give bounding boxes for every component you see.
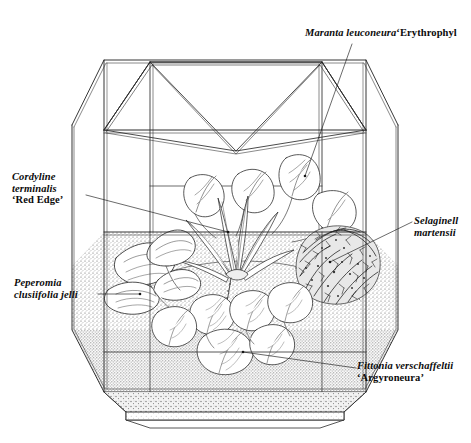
selaginella-species: martensii	[414, 227, 458, 239]
fittonia-label: Fittonia verschaffeltii ‘Argyroneura’	[357, 360, 453, 383]
cordyline-label: Cordyline terminalis ‘Red Edge’	[12, 171, 63, 206]
selaginella-genus: Selaginell	[414, 215, 458, 227]
terrarium-illustration: Maranta leuconeura‘Erythrophyl Cordyline…	[0, 0, 471, 443]
base-tray	[104, 392, 366, 420]
terrarium-uprights-back	[150, 62, 322, 232]
cordyline-genus: Cordyline	[12, 171, 63, 183]
cordyline-species: terminalis	[12, 183, 63, 195]
selaginella-label: Selaginell martensii	[414, 215, 458, 238]
leader-maranta	[305, 44, 352, 176]
cordyline-cultivar-name: ‘Red Edge’	[12, 194, 63, 206]
peperomia-label: Peperomia clusiifolia jelli	[14, 277, 78, 300]
maranta-scientific-name: Maranta leuconeura	[305, 27, 396, 38]
fittonia-scientific-name: Fittonia verschaffeltii	[357, 360, 453, 372]
peperomia-species: clusiifolia jelli	[14, 289, 78, 301]
maranta-label: Maranta leuconeura‘Erythrophyl	[305, 27, 457, 39]
maranta-cultivar-name: ‘Erythrophyl	[396, 27, 457, 38]
peperomia-genus: Peperomia	[14, 277, 78, 289]
fittonia-cultivar-name: ‘Argyroneura’	[357, 372, 453, 384]
terrarium-frame-back	[104, 62, 366, 154]
